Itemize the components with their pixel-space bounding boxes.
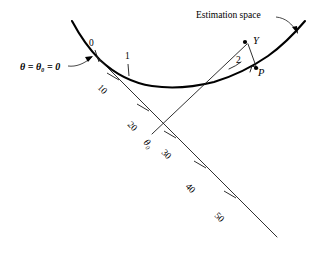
estimation-space-leader (276, 17, 297, 32)
axis-tick-label-10: 10 (96, 82, 110, 96)
axis-tick-label-50: 50 (213, 210, 227, 224)
estimation-space-label: Estimation space (196, 10, 261, 20)
axis-tick-label-40: 40 (184, 181, 198, 195)
point-label-P: P (257, 67, 265, 78)
axis-tick-label-20: 20 (126, 119, 140, 133)
curve-tick-1 (128, 64, 129, 76)
estimation-space-diagram: Estimation space θ = θ₀ = 0 0 1 2 Y P 10… (0, 0, 316, 257)
figure-root: Estimation space θ = θ₀ = 0 0 1 2 Y P 10… (0, 0, 316, 257)
geodesic-tangent-line (97, 57, 277, 237)
point-Y-dot (243, 40, 247, 44)
theta-naught-tick-label: θ₀ (142, 137, 156, 151)
curve-tick-label-2: 2 (236, 55, 241, 65)
point-label-Y: Y (253, 35, 260, 46)
theta-origin-label: θ = θ₀ = 0 (20, 61, 60, 72)
curve-tick-label-1: 1 (125, 51, 130, 61)
estimation-space-curve (72, 21, 305, 87)
axis-tick-label-30: 30 (160, 147, 174, 161)
estimation-ray (152, 44, 247, 134)
curve-tick-label-0: 0 (89, 38, 94, 48)
